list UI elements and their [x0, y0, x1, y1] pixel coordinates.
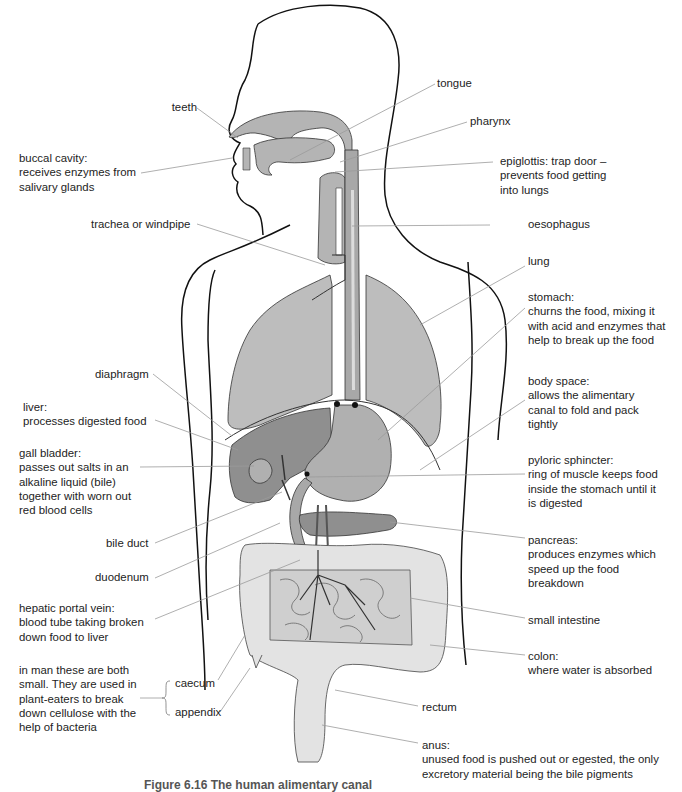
pancreas [299, 512, 396, 536]
label-in-man-note: in man these are both small. They are us… [19, 663, 137, 734]
label-lung: lung [528, 254, 550, 268]
label-appendix: appendix [175, 705, 221, 719]
label-anus: anus: unused food is pushed out or egest… [422, 738, 659, 781]
cardiac-sphincter [352, 402, 358, 408]
label-duodenum: duodenum [95, 570, 149, 584]
label-rectum: rectum [422, 700, 457, 714]
label-small-intestine: small intestine [528, 613, 600, 627]
label-hepatic-portal-vein: hepatic portal vein: blood tube taking b… [19, 601, 144, 644]
label-tongue: tongue [437, 76, 472, 90]
label-epiglottis: epiglottis: trap door – prevents food ge… [500, 154, 606, 197]
label-pyloric-sphincter: pyloric sphincter: ring of muscle keeps … [528, 453, 658, 510]
label-buccal-cavity: buccal cavity: receives enzymes from sal… [19, 151, 136, 194]
label-pancreas: pancreas: produces enzymes which speed u… [528, 533, 656, 590]
gall-bladder [249, 459, 272, 483]
label-body-space: body space: allows the alimentary canal … [528, 374, 639, 431]
label-liver: liver: processes digested food [23, 400, 146, 429]
pyloric-sphincter [305, 472, 310, 477]
label-stomach: stomach: churns the food, mixing it with… [528, 290, 665, 347]
label-teeth: teeth [150, 100, 197, 114]
label-colon: colon: where water is absorbed [528, 649, 652, 678]
label-diaphragm: diaphragm [95, 367, 149, 381]
brace [162, 681, 170, 715]
figure-caption: Figure 6.16 The human alimentary canal [144, 778, 372, 792]
label-caecum: caecum [175, 676, 215, 690]
label-pharynx: pharynx [470, 114, 511, 128]
label-gall-bladder: gall bladder: passes out salts in an alk… [19, 446, 131, 517]
label-trachea: trachea or windpipe [91, 217, 190, 231]
label-oesophagus: oesophagus [528, 217, 590, 231]
cardiac-sphincter [334, 401, 340, 407]
label-bile-duct: bile duct [106, 536, 148, 550]
small-intestine [270, 570, 412, 645]
duodenum [290, 478, 312, 545]
